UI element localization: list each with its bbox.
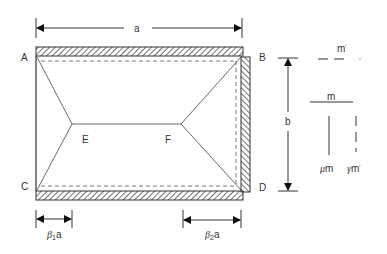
legend-neg-label: m' <box>337 43 347 54</box>
label-a: a <box>134 23 140 34</box>
svg-text:β2a: β2a <box>204 229 220 241</box>
legend-mu-label: μm <box>319 163 333 174</box>
beta2-suffix: a <box>214 229 220 240</box>
support-right <box>241 57 250 192</box>
corner-A: A <box>21 52 28 63</box>
legend-gamma-label: γm' <box>347 163 360 174</box>
dimension-b: b <box>278 58 298 191</box>
support-top <box>36 47 243 56</box>
node-F: F <box>165 134 171 145</box>
legend-pos-label: m <box>327 91 335 102</box>
yield-line-diagram: a A B C D E F b β1a <box>0 0 387 254</box>
corner-B: B <box>259 52 266 63</box>
dimension-a: a <box>36 18 242 38</box>
pos-yield-lines <box>37 57 241 190</box>
corner-C: C <box>21 181 28 192</box>
legend: m' m μm γm' <box>310 43 361 174</box>
dimension-beta2a: β2a <box>183 210 241 241</box>
dimension-beta1a: β1a <box>36 210 72 241</box>
svg-text:β1a: β1a <box>46 229 62 241</box>
node-E: E <box>82 134 89 145</box>
corner-D: D <box>259 182 266 193</box>
beta1-suffix: a <box>56 229 62 240</box>
support-bottom <box>36 191 243 200</box>
label-b: b <box>285 116 291 127</box>
